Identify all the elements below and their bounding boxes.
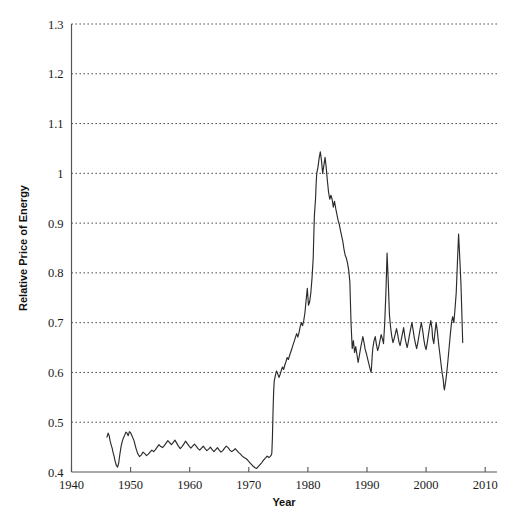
energy-price-chart: 0.40.50.60.70.80.911.11.21.3 19401950196…	[0, 0, 518, 522]
chart-canvas: 0.40.50.60.70.80.911.11.21.3 19401950196…	[0, 0, 518, 522]
y-tick-label: 0.9	[48, 217, 64, 231]
x-tick-label: 1980	[295, 478, 320, 492]
chart-background	[0, 0, 518, 522]
x-tick-label: 1990	[354, 478, 379, 492]
y-tick-label: 0.6	[48, 366, 64, 380]
y-tick-label: 1.1	[48, 117, 64, 131]
x-tick-label: 1950	[118, 478, 143, 492]
y-axis-title: Relative Price of Energy	[17, 184, 29, 311]
y-tick-label: 0.7	[48, 316, 64, 330]
x-axis-title: Year	[272, 496, 296, 508]
y-tick-label: 0.5	[48, 416, 64, 430]
x-tick-label: 1960	[177, 478, 202, 492]
y-tick-label: 0.8	[48, 266, 64, 280]
x-tick-label: 2010	[473, 478, 498, 492]
x-tick-label: 1970	[236, 478, 261, 492]
x-tick-label: 2000	[414, 478, 439, 492]
y-tick-label: 1.2	[48, 67, 64, 81]
y-tick-label: 1.3	[48, 18, 64, 32]
y-tick-label: 1	[57, 167, 63, 181]
x-tick-label: 1940	[59, 478, 84, 492]
